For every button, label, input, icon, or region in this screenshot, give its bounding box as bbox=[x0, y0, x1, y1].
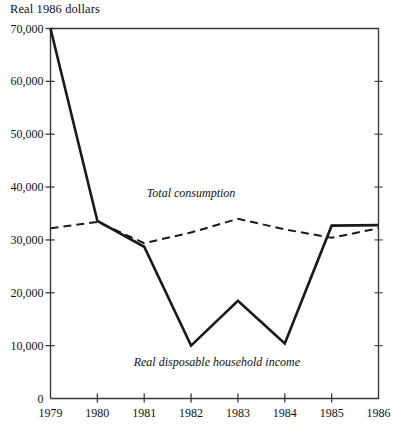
x-axis-tick-label: 1982 bbox=[171, 407, 211, 419]
y-axis-tick-label: 40,000 bbox=[11, 181, 44, 193]
series-annotation-2: Real disposable household income bbox=[134, 356, 300, 369]
x-axis-tick-label: 1980 bbox=[77, 407, 117, 419]
x-axis-tick-label: 1979 bbox=[31, 407, 71, 419]
y-axis-tick-label: 10,000 bbox=[11, 340, 44, 352]
y-axis-tick-label: 0 bbox=[38, 393, 44, 405]
x-axis-tick-label: 1981 bbox=[124, 407, 164, 419]
y-axis-tick-label: 20,000 bbox=[11, 287, 44, 299]
y-axis-tick-label: 60,000 bbox=[11, 75, 44, 87]
y-axis-tick-label: 50,000 bbox=[11, 128, 44, 140]
x-axis-tick-label: 1983 bbox=[218, 407, 258, 419]
y-axis-tick-label: 30,000 bbox=[11, 234, 44, 246]
x-axis-tick-label: 1984 bbox=[265, 407, 305, 419]
y-axis-tick-label: 70,000 bbox=[11, 23, 44, 35]
chart-figure: Real 1986 dollars 010,00020,00030,00040,… bbox=[0, 0, 394, 433]
x-axis-tick-label: 1985 bbox=[312, 407, 352, 419]
x-axis-tick-label: 1986 bbox=[359, 407, 394, 419]
plot-frame bbox=[51, 29, 379, 399]
series-annotation-1: Total consumption bbox=[147, 187, 236, 200]
axes-group bbox=[51, 29, 379, 399]
